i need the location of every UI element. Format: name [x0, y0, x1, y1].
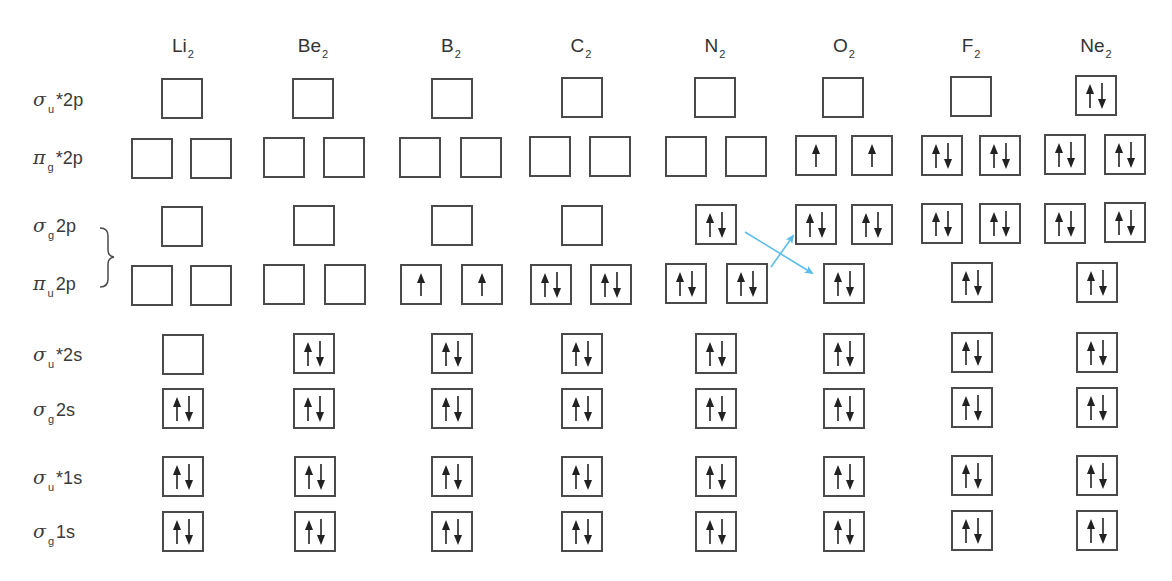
spin-down-arrow-icon — [1002, 211, 1010, 237]
spin-up-arrow-icon — [706, 465, 714, 489]
spin-down-arrow-icon — [316, 396, 324, 422]
spin-down-arrow-icon — [846, 464, 854, 490]
orbital-box-c2-sigma-g-2p — [561, 205, 603, 246]
orbital-box-o2-sigma-u-star-2p — [822, 77, 864, 118]
molecule-symbol: Ne — [1080, 35, 1104, 56]
row-label-sigma-g-1s: σg1s — [33, 520, 75, 545]
orbital-box-o2-sigma-u-star-2s — [823, 333, 865, 374]
spin-up-arrow-icon — [478, 273, 486, 296]
orbital-box-be2-pi-g-star-2p — [263, 137, 305, 178]
spin-up-arrow-icon — [541, 273, 549, 297]
row-label-pi-u-2p: πu2p — [33, 272, 76, 297]
orbital-box-b2-pi-u-2p — [461, 264, 503, 305]
orbital-box-b2-sigma-g-1s — [431, 511, 473, 552]
spin-up-arrow-icon — [834, 520, 842, 544]
orbital-box-c2-sigma-g-1s — [561, 511, 603, 552]
orbital-box-b2-pi-g-star-2p — [399, 137, 441, 178]
orbital-box-ne2-pi-g-star-2p — [1044, 134, 1086, 175]
spin-down-arrow-icon — [1067, 211, 1075, 237]
orbital-box-f2-sigma-g-1s — [951, 510, 993, 551]
orbital-symbol: σ — [33, 88, 46, 110]
spin-up-arrow-icon — [706, 342, 714, 366]
spin-down-arrow-icon — [1127, 142, 1135, 168]
orbital-box-f2-sigma-u-star-2s — [951, 332, 993, 373]
orbital-box-li2-sigma-g-2s — [162, 388, 204, 429]
spin-up-arrow-icon — [1087, 464, 1095, 488]
orbital-box-n2-sigma-g-2p — [695, 204, 737, 245]
orbital-box-o2-pi-u-2p — [851, 204, 893, 245]
orbital-box-be2-sigma-u-star-2p — [292, 78, 334, 119]
orbital-box-ne2-sigma-u-star-1s — [1076, 455, 1118, 496]
orbital-box-ne2-pi-u-2p — [1044, 203, 1086, 244]
orbital-box-ne2-sigma-g-1s — [1076, 510, 1118, 551]
orbital-box-li2-pi-u-2p — [131, 265, 173, 306]
spin-down-arrow-icon — [874, 212, 882, 238]
spin-down-arrow-icon — [454, 396, 462, 422]
spin-up-arrow-icon — [1086, 84, 1094, 108]
orbital-box-n2-pi-u-2p — [665, 263, 707, 304]
orbital-symbol: π — [33, 272, 46, 294]
molecule-subscript: 2 — [719, 48, 725, 60]
spin-up-arrow-icon — [834, 465, 842, 489]
orbital-box-be2-sigma-g-2s — [293, 388, 335, 429]
spin-down-arrow-icon — [613, 272, 621, 298]
spin-down-arrow-icon — [818, 212, 826, 238]
orbital-box-li2-sigma-g-1s — [162, 511, 204, 552]
spin-up-arrow-icon — [1087, 519, 1095, 543]
orbital-box-b2-pi-g-star-2p — [460, 137, 502, 178]
orbital-box-o2-sigma-g-1s — [823, 511, 865, 552]
orbital-box-b2-sigma-g-2s — [431, 388, 473, 429]
spin-up-arrow-icon — [706, 520, 714, 544]
orbital-box-ne2-sigma-g-2s — [1076, 387, 1118, 428]
spin-up-arrow-icon — [962, 464, 970, 488]
spin-down-arrow-icon — [1099, 518, 1107, 544]
spin-down-arrow-icon — [718, 464, 726, 490]
spin-down-arrow-icon — [454, 519, 462, 545]
spin-up-arrow-icon — [862, 213, 870, 237]
spin-up-arrow-icon — [990, 212, 998, 236]
spin-down-arrow-icon — [718, 519, 726, 545]
spin-up-arrow-icon — [1115, 143, 1123, 167]
spin-up-arrow-icon — [962, 519, 970, 543]
orbital-box-f2-sigma-g-2p — [951, 262, 993, 303]
orbital-suffix: *2p — [56, 90, 83, 110]
orbital-symbol: σ — [33, 398, 46, 420]
orbital-box-n2-sigma-g-1s — [695, 511, 737, 552]
orbital-box-b2-sigma-u-star-2p — [431, 78, 473, 119]
orbital-box-be2-pi-g-star-2p — [323, 137, 365, 178]
orbital-suffix: *2p — [56, 148, 83, 168]
spin-up-arrow-icon — [834, 272, 842, 296]
spin-up-arrow-icon — [706, 213, 714, 237]
orbital-box-be2-pi-u-2p — [324, 264, 366, 305]
symmetry-subscript: u — [48, 481, 54, 493]
symmetry-subscript: g — [48, 535, 54, 547]
spin-up-arrow-icon — [676, 272, 684, 296]
spin-down-arrow-icon — [974, 340, 982, 366]
orbital-box-ne2-sigma-u-star-2p — [1075, 75, 1117, 116]
spin-down-arrow-icon — [584, 341, 592, 367]
orbital-box-n2-pi-g-star-2p — [725, 136, 767, 177]
molecule-subscript: 2 — [455, 48, 461, 60]
column-header-be2: Be2 — [263, 34, 363, 60]
column-header-f2: F2 — [921, 34, 1021, 60]
spin-up-arrow-icon — [1087, 271, 1095, 295]
orbital-box-o2-sigma-u-star-1s — [823, 456, 865, 497]
spin-down-arrow-icon — [584, 396, 592, 422]
orbital-box-c2-sigma-u-star-1s — [561, 456, 603, 497]
orbital-box-f2-pi-u-2p — [979, 203, 1021, 244]
orbital-symbol: π — [33, 146, 46, 168]
spin-up-arrow-icon — [737, 272, 745, 296]
column-header-ne2: Ne2 — [1046, 34, 1146, 60]
orbital-box-ne2-pi-u-2p — [1104, 202, 1146, 243]
spin-up-arrow-icon — [572, 465, 580, 489]
spin-down-arrow-icon — [974, 270, 982, 296]
spin-down-arrow-icon — [846, 396, 854, 422]
spin-up-arrow-icon — [932, 212, 940, 236]
row-label-sigma-g-2s: σg2s — [33, 398, 75, 423]
spin-down-arrow-icon — [1099, 463, 1107, 489]
orbital-box-ne2-sigma-u-star-2s — [1076, 332, 1118, 373]
symmetry-subscript: u — [48, 103, 54, 115]
orbital-box-o2-sigma-g-2s — [823, 388, 865, 429]
orbital-symbol: σ — [33, 466, 46, 488]
orbital-suffix: *2s — [56, 345, 82, 365]
